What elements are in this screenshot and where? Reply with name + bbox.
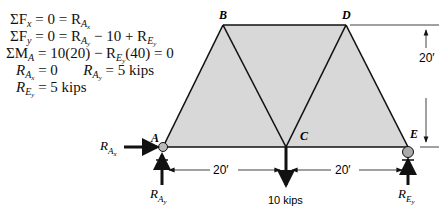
load-label-c: 10 kips [268,194,303,206]
truss-fill [163,25,408,147]
reaction-rax-label: RAx [99,138,117,158]
height-dimension-label: 20′ [419,51,435,65]
node-b-label: B [218,8,227,22]
reaction-ray-label: RAy [149,186,167,206]
truss-diagram: 20′ 20′ 20′ A B C D E 10 kips RAx RAy RE… [0,0,439,213]
node-a-label: A [150,131,159,145]
span-ce-label: 20′ [335,163,351,177]
node-e-label: E [409,127,418,141]
node-d-label: D [341,8,351,22]
roller-support-e [403,147,414,158]
span-ac-label: 20′ [213,163,229,177]
reaction-rey-label: REy [397,186,415,206]
node-c-label: C [300,129,309,143]
pin-support-a [159,143,168,152]
